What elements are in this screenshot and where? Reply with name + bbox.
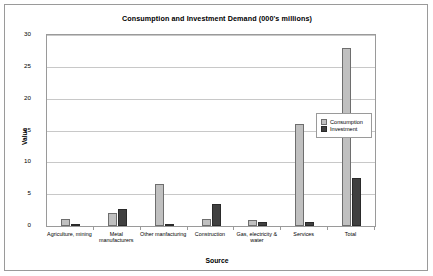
y-tick-label: 20: [9, 94, 31, 101]
bar-investment-5: [305, 222, 314, 226]
x-tick-mark: [327, 227, 328, 230]
x-tick-label: Other manfacturing: [139, 231, 187, 237]
y-tick-label: 30: [9, 30, 31, 37]
bar-investment-0: [71, 224, 80, 226]
x-tick-mark: [280, 227, 281, 230]
bar-investment-3: [212, 204, 221, 226]
gridline: [47, 194, 375, 195]
bar-investment-6: [352, 178, 361, 226]
y-tick-label: 25: [9, 62, 31, 69]
bar-consumption-1: [108, 213, 117, 226]
x-tick-mark: [93, 227, 94, 230]
y-tick-label: 5: [9, 189, 31, 196]
bar-consumption-5: [295, 124, 304, 226]
bar-consumption-4: [248, 220, 257, 226]
x-axis-label: Source: [5, 257, 429, 264]
legend-swatch-investment: [321, 126, 327, 132]
gridline: [47, 35, 375, 36]
y-tick-label: 15: [9, 126, 31, 133]
x-tick-label: Gas, electricity & water: [233, 231, 281, 244]
chart-title: Consumption and Investment Demand (000's…: [5, 14, 429, 23]
bar-consumption-3: [202, 219, 211, 226]
x-tick-mark: [374, 227, 375, 230]
x-tick-mark: [140, 227, 141, 230]
bar-investment-2: [165, 224, 174, 226]
legend-item: Consumption: [321, 119, 367, 125]
legend-label: Consumption: [330, 119, 363, 125]
x-tick-label: Agriculture, mining: [45, 231, 93, 237]
bar-consumption-0: [61, 219, 70, 226]
bar-consumption-2: [155, 184, 164, 226]
legend-item: Investment: [321, 126, 367, 132]
chart-frame: Consumption and Investment Demand (000's…: [4, 4, 428, 271]
gridline: [47, 162, 375, 163]
x-tick-label: Metal manufacturers: [92, 231, 140, 244]
bar-investment-4: [258, 222, 267, 226]
chart-screenshot: Consumption and Investment Demand (000's…: [0, 0, 433, 276]
y-tick-label: 0: [9, 221, 31, 228]
gridline: [47, 99, 375, 100]
x-tick-label: Services: [280, 231, 328, 237]
chart-legend: ConsumptionInvestment: [316, 113, 372, 138]
legend-label: Investment: [330, 126, 357, 132]
bar-investment-1: [118, 209, 127, 226]
legend-swatch-consumption: [321, 119, 327, 125]
x-tick-label: Construction: [186, 231, 234, 237]
x-tick-label: Total: [327, 231, 375, 237]
x-tick-mark: [233, 227, 234, 230]
y-tick-label: 10: [9, 157, 31, 164]
x-tick-mark: [187, 227, 188, 230]
gridline: [47, 67, 375, 68]
